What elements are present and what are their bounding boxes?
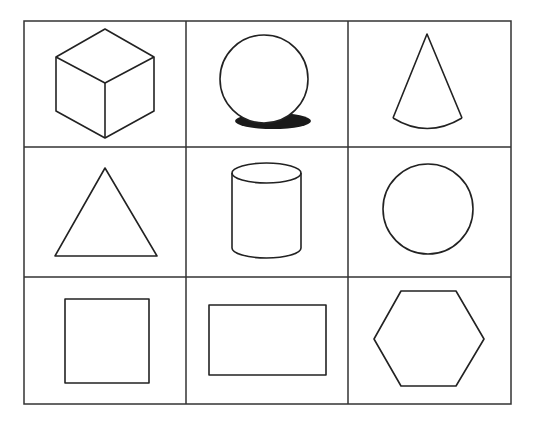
sphere-shape (220, 35, 308, 123)
cell-cube (56, 29, 154, 138)
triangle-shape (55, 168, 157, 256)
hexagon-shape (374, 291, 484, 386)
cell-triangle (55, 168, 157, 256)
shapes-grid-diagram (0, 0, 536, 427)
cell-cone (393, 34, 462, 129)
cylinder-shape (232, 163, 301, 258)
cell-cylinder (232, 163, 301, 258)
cube-shape (56, 29, 154, 138)
cone-shape (393, 34, 462, 129)
circle-shape (383, 164, 473, 254)
rectangle-shape (209, 305, 326, 375)
cell-sphere (220, 35, 311, 129)
square-shape (65, 299, 149, 383)
cell-square (65, 299, 149, 383)
cell-hexagon (374, 291, 484, 386)
cell-circle (383, 164, 473, 254)
cell-rectangle (209, 305, 326, 375)
